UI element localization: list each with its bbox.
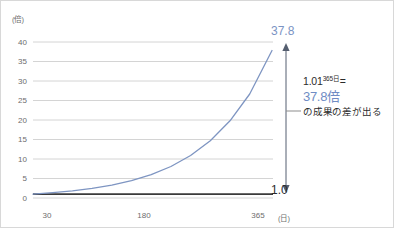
callout-description: の成果の差が出る [303, 105, 394, 119]
callout-formula-equals: = [340, 75, 346, 87]
callout-block: 1.01365日= 37.8倍 の成果の差が出る [303, 75, 394, 119]
callout-formula-base: 1.01 [303, 75, 323, 87]
gap-arrow [282, 43, 301, 193]
chart-figure: (倍) 40 35 30 25 20 15 10 5 0 30 180 365 … [0, 0, 394, 228]
series-line-growth [33, 51, 272, 195]
gridlines [33, 42, 273, 198]
callout-result: 37.8倍 [303, 88, 394, 105]
callout-formula-exponent: 365日 [323, 75, 340, 82]
callout-formula: 1.01365日= [303, 75, 394, 88]
flat-end-value-label: 1.0 [271, 184, 288, 196]
growth-end-value-label: 37.8 [271, 25, 294, 37]
